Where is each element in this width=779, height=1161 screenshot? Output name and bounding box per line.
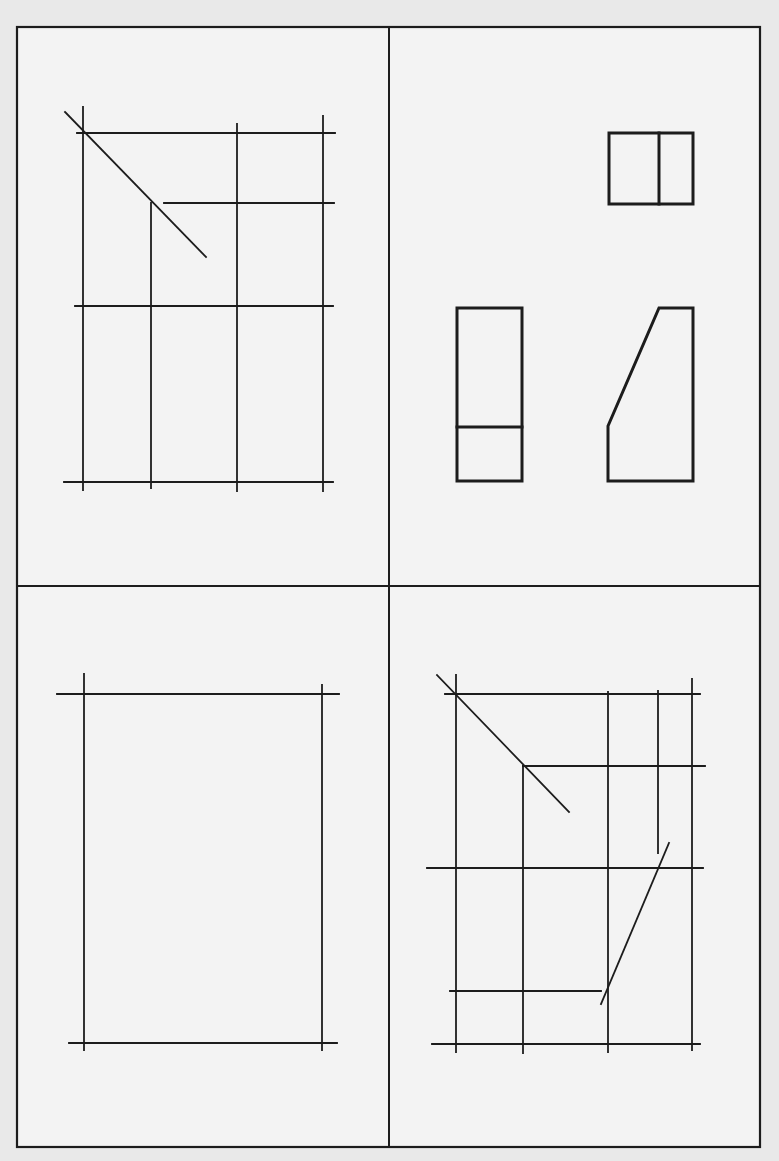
drawing-sheet [0, 0, 779, 1161]
